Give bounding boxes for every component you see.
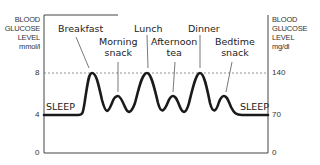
label-sleep-left: SLEEP (46, 101, 75, 112)
morning-line1: Morning (99, 36, 137, 47)
label-bedtime-snack: Bedtime snack (215, 36, 255, 58)
label-afternoon-tea: Afternoon tea (151, 36, 197, 58)
afternoon-line1: Afternoon (151, 36, 197, 47)
morning-line2: snack (99, 47, 137, 58)
bedtime-line2: snack (215, 47, 255, 58)
label-breakfast: Breakfast (58, 23, 103, 34)
tick-8: 8 (35, 68, 39, 77)
tick-70: 70 (272, 110, 281, 119)
tick-140: 140 (272, 68, 285, 77)
tick-0-right: 0 (272, 148, 276, 157)
label-lunch: Lunch (134, 23, 162, 34)
afternoon-line2: tea (151, 47, 197, 58)
tick-4: 4 (35, 110, 39, 119)
tick-0-left: 0 (35, 148, 39, 157)
label-sleep-right: SLEEP (240, 101, 269, 112)
label-dinner: Dinner (188, 23, 220, 34)
bedtime-line1: Bedtime (215, 36, 255, 47)
label-morning-snack: Morning snack (99, 36, 137, 58)
